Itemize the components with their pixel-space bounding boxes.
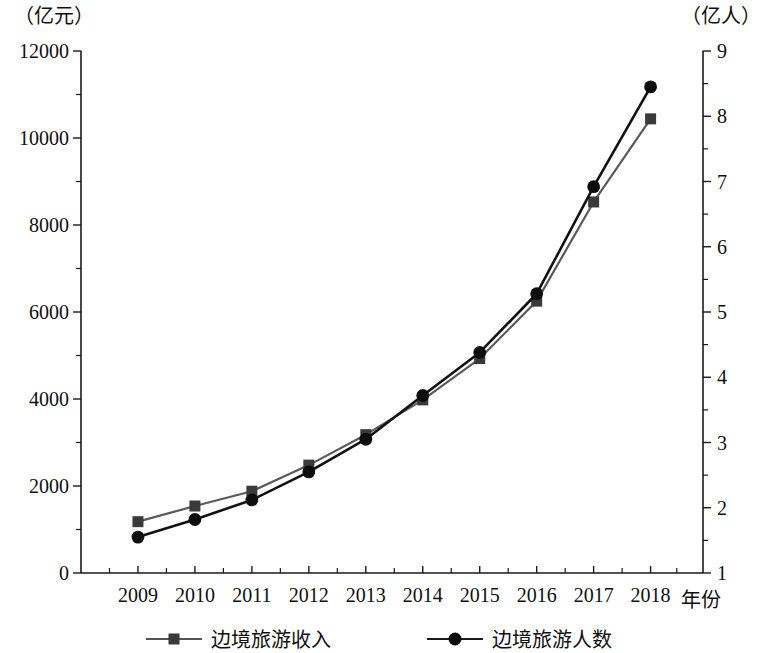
square-marker-icon	[169, 633, 180, 644]
data-point-circle	[644, 80, 657, 93]
circle-marker-icon	[449, 632, 462, 645]
data-point-circle	[587, 180, 600, 193]
left-tick-label: 10000	[0, 127, 69, 150]
x-tick-label: 2010	[175, 584, 215, 607]
legend-label-revenue: 边境旅游收入	[211, 624, 331, 653]
data-point-square	[645, 113, 656, 124]
data-point-square	[588, 196, 599, 207]
data-point-circle	[359, 433, 372, 446]
axes-layer	[73, 51, 711, 573]
data-point-circle	[416, 389, 429, 402]
line-chart: （亿元） （亿人） 020004000600080001000012000 12…	[0, 0, 758, 653]
x-tick-label: 2009	[118, 584, 158, 607]
x-tick-label: 2018	[631, 584, 671, 607]
right-tick-label: 1	[717, 562, 727, 585]
x-tick-label: 2011	[232, 584, 271, 607]
x-tick-label: 2012	[289, 584, 329, 607]
left-tick-label: 0	[0, 562, 69, 585]
x-tick-label: 2015	[460, 584, 500, 607]
data-point-circle	[302, 465, 315, 478]
data-point-circle	[132, 531, 145, 544]
right-tick-label: 5	[717, 301, 727, 324]
data-point-circle	[245, 494, 258, 507]
legend-line-tourists	[427, 632, 483, 646]
left-tick-label: 8000	[0, 214, 69, 237]
right-tick-label: 8	[717, 105, 727, 128]
right-tick-label: 7	[717, 170, 727, 193]
right-tick-label: 4	[717, 366, 727, 389]
legend-line-revenue	[146, 632, 202, 646]
x-tick-label: 2017	[574, 584, 614, 607]
data-point-square	[189, 501, 200, 512]
left-tick-label: 6000	[0, 301, 69, 324]
series-line-1	[138, 87, 651, 537]
right-tick-label: 2	[717, 496, 727, 519]
data-point-circle	[473, 346, 486, 359]
right-tick-label: 9	[717, 40, 727, 63]
legend-label-tourists: 边境旅游人数	[492, 624, 612, 653]
right-tick-label: 3	[717, 431, 727, 454]
left-axis-unit-label: （亿元）	[14, 0, 94, 29]
data-point-circle	[530, 287, 543, 300]
plot-area	[0, 0, 758, 653]
x-tick-label: 2014	[403, 584, 443, 607]
left-tick-label: 12000	[0, 40, 69, 63]
legend-item-revenue: 边境旅游收入	[146, 624, 331, 653]
right-axis-unit-label: （亿人）	[681, 0, 758, 29]
series-layer	[132, 80, 657, 543]
series-line-0	[138, 119, 651, 522]
right-tick-label: 6	[717, 235, 727, 258]
left-tick-label: 2000	[0, 475, 69, 498]
data-point-square	[132, 516, 143, 527]
x-tick-label: 2013	[346, 584, 386, 607]
left-tick-label: 4000	[0, 388, 69, 411]
x-tick-label: 2016	[517, 584, 557, 607]
legend-item-tourists: 边境旅游人数	[427, 624, 612, 653]
x-axis-title: 年份	[681, 584, 721, 613]
data-point-circle	[189, 513, 202, 526]
chart-legend: 边境旅游收入 边境旅游人数	[0, 624, 758, 653]
